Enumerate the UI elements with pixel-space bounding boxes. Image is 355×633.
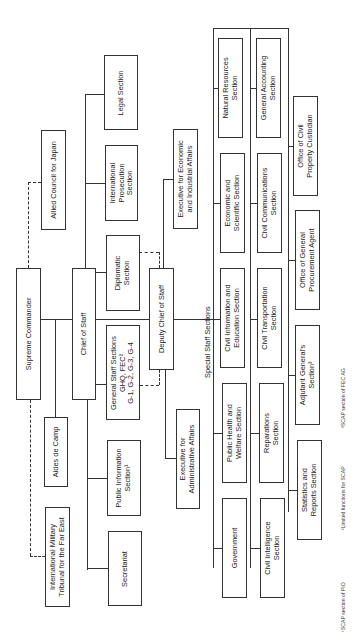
box-statistics-reports: Statistics and Reports Section (297, 440, 322, 540)
box-deputy-chief: Deputy Chief of Staff (149, 268, 174, 370)
stub-statistics (288, 490, 297, 491)
stub-procurement (288, 260, 295, 261)
cos-trunk-lower (87, 400, 88, 570)
box-secretariat: Secretariat (108, 531, 142, 606)
special-col3 (288, 28, 289, 512)
box-supreme-commander: Supreme Commander (16, 268, 41, 400)
box-label: Office of Civil Property Custodian (297, 114, 314, 177)
link-legal (85, 94, 104, 95)
box-label: Allied Council for Japan (49, 141, 58, 219)
box-chief-of-staff: Chief of Staff (72, 268, 96, 400)
link-aides (55, 319, 56, 417)
box-label: Government (230, 528, 239, 569)
box-legal-section: Legal Section (104, 55, 138, 130)
box-label: Civil Intelligence Section (264, 521, 281, 574)
stub-health (213, 433, 222, 434)
box-civil-transportation: Civil Transportation Section (257, 268, 282, 368)
stub-cie (213, 319, 220, 320)
special-staff-label: Special Staff Sections (203, 306, 212, 378)
dashed-diplomatic-deputy (139, 252, 159, 253)
cos-trunk-upper (85, 94, 86, 268)
dashed-general-deputy-v (159, 370, 160, 385)
link-cos-deputy (96, 319, 149, 320)
stub-adjutant (288, 375, 295, 376)
stub-government (213, 548, 222, 549)
special-col1 (213, 28, 214, 568)
box-government: Government (222, 498, 247, 598)
deputy-trunk-lower (165, 370, 166, 458)
box-label: Secretariat (121, 551, 130, 587)
box-label: Diplomatic Section (114, 256, 131, 291)
dashed-diplomatic-deputy-v (159, 252, 160, 268)
dashed-link-allied-h (28, 182, 41, 183)
box-adjutant-general: Adjutant General's Section³ (295, 325, 320, 425)
footnote-1: ¹SCAP section of PIO (340, 582, 346, 632)
link-public-info (87, 478, 107, 479)
box-label: Natural Resources Section (222, 57, 239, 118)
box-natural-resources: Natural Resources Section (218, 38, 243, 138)
box-exec-economic: Executive for Economic and Industrial Af… (173, 129, 198, 229)
box-label: Supreme Commander (24, 298, 33, 371)
box-civil-communications: Civil Communications Section (257, 153, 282, 253)
box-general-accounting: General Accounting Section (256, 38, 281, 138)
box-label: Deputy Chief of Staff (157, 285, 166, 353)
link-exec-admin (165, 458, 176, 459)
dashed-general-deputy (140, 385, 159, 386)
box-label: International Prosecution Section (109, 163, 135, 204)
box-label: Adjutant General's Section³ (299, 345, 316, 406)
stub-intelligence (250, 548, 260, 549)
stub-transport (250, 319, 257, 320)
box-label: Aides de Camp (52, 427, 61, 478)
box-imtfe: International Military Tribunal for the … (45, 507, 70, 607)
box-label: Reparations Section (263, 413, 280, 453)
special-col2 (250, 28, 251, 568)
dashed-link-imtfe-h (30, 556, 45, 557)
stub-comm (250, 203, 257, 204)
box-label: Public Health and Welfare Section (226, 404, 243, 462)
box-label: Legal Section (117, 70, 126, 115)
box-exec-admin: Executive for Administrative Affairs (176, 409, 200, 509)
dashed-link-imtfe (30, 400, 31, 556)
box-label: Economic and Scientific Section (224, 175, 241, 231)
stub-econ (213, 203, 220, 204)
dashed-link-allied (28, 182, 29, 268)
box-label: Statistics and Reports Section (301, 464, 318, 517)
box-aides-de-camp: Aides de Camp (44, 417, 68, 487)
box-general-staff: General Staff Sections GHQ, FEC² G-1, G-… (106, 325, 140, 420)
link-sc-cos (40, 319, 72, 320)
box-label: General Accounting Section (260, 56, 277, 121)
footnote-2: ²Limited functions for SCAP (340, 466, 346, 530)
box-general-procurement: Office of General Procurement Agent (295, 210, 320, 310)
link-exec-econ (163, 179, 173, 180)
box-label: General Staff Sections GHQ, FEC² G-1, G-… (110, 336, 136, 410)
box-label: Public Information Section¹ (115, 448, 132, 507)
box-public-health: Public Health and Welfare Section (222, 383, 247, 483)
link-prosecution (85, 183, 105, 184)
box-label: International Military Tribunal for the … (49, 517, 66, 596)
box-label: Office of General Procurement Agent (299, 228, 316, 291)
box-diplomatic-section: Diplomatic Section (106, 235, 140, 311)
box-reparations: Reparations Section (259, 383, 284, 483)
box-allied-council: Allied Council for Japan (41, 130, 66, 230)
box-econ-scientific: Economic and Scientific Section (220, 153, 245, 253)
special-top-bar (213, 28, 289, 29)
box-civil-property: Office of Civil Property Custodian (293, 96, 318, 196)
link-secretariat (87, 568, 108, 569)
box-civil-info-education: Civil Information and Education Section (220, 268, 245, 368)
box-public-information: Public Information Section¹ (107, 440, 141, 516)
box-label: Executive for Economic and Industrial Af… (177, 140, 194, 217)
box-label: Civil Communications Section (261, 167, 278, 238)
box-civil-intelligence: Civil Intelligence Section (260, 498, 285, 598)
box-label: Civil Transportation Section (261, 286, 278, 349)
deputy-trunk-upper (163, 179, 164, 268)
box-international-prosecution: International Prosecution Section (105, 145, 138, 221)
stub-reparations (250, 433, 259, 434)
box-label: Chief of Staff (80, 313, 89, 356)
box-label: Civil Information and Education Section (224, 284, 241, 351)
box-label: Executive for Administrative Affairs (179, 425, 196, 494)
footnote-3: ³SCAP section of FEC AG (340, 368, 346, 428)
